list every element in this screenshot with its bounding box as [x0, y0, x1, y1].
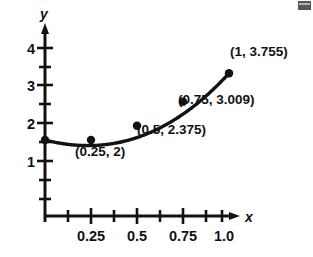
data-point-marker	[225, 69, 233, 77]
point-label-0: (0.25, 2)	[75, 144, 125, 159]
point-label-1: (0.5, 2.375)	[137, 122, 206, 137]
point-label-3: (1, 3.755)	[230, 44, 288, 59]
x-tick-label-10: 1.0	[214, 228, 234, 244]
x-tick-label-075: 0.75	[169, 228, 197, 244]
coordinate-plot: 0.25 0.5 0.75 1.0 4 3 2 1 y x (0.25, 2) …	[0, 0, 313, 257]
y-axis-tick-labels: 4 3 2 1	[27, 41, 35, 170]
data-point-marker	[41, 136, 49, 144]
x-tick-label-025: 0.25	[77, 228, 105, 244]
scan-artifact	[298, 1, 311, 10]
x-axis-label: x	[244, 209, 254, 225]
data-point-marker	[87, 136, 95, 144]
x-axis-arrowhead	[229, 212, 240, 220]
y-axis-label: y	[39, 6, 49, 22]
y-tick-label-1: 1	[27, 154, 35, 170]
y-tick-label-4: 4	[27, 41, 35, 57]
point-label-2: (0.75, 3.009)	[178, 92, 255, 107]
chart-figure: 0.25 0.5 0.75 1.0 4 3 2 1 y x (0.25, 2) …	[0, 0, 313, 257]
y-tick-label-2: 2	[27, 116, 35, 132]
x-tick-label-05: 0.5	[127, 228, 147, 244]
x-axis-tick-labels: 0.25 0.5 0.75 1.0	[77, 228, 234, 244]
y-axis-arrowhead	[41, 23, 49, 34]
y-tick-label-3: 3	[27, 78, 35, 94]
point-annotations: (0.25, 2) (0.5, 2.375) (0.75, 3.009) (1,…	[75, 44, 288, 159]
